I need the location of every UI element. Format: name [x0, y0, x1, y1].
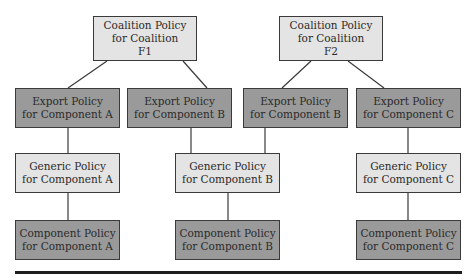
- edge-coal_f2-to-exp_b2: [282, 61, 311, 88]
- node-coal-f2: Coalition Policy for Coalition F2: [279, 16, 383, 61]
- edge-coal_f1-to-exp_b1: [183, 61, 207, 88]
- node-comp-a: Component Policy for Component A: [15, 220, 120, 260]
- node-label: Component Policy for Component A: [19, 227, 115, 253]
- node-label: Coalition Policy for Coalition F2: [290, 19, 373, 58]
- node-coal-f1: Coalition Policy for Coalition F1: [93, 16, 197, 61]
- policy-hierarchy-diagram: Coalition Policy for Coalition F1Coaliti…: [0, 0, 476, 280]
- node-label: Export Policy for Component A: [22, 95, 113, 121]
- edge-coal_f2-to-exp_c: [348, 61, 384, 88]
- node-label: Export Policy for Component B: [134, 95, 225, 121]
- node-comp-b: Component Policy for Component B: [175, 220, 280, 260]
- node-exp-c: Export Policy for Component C: [356, 88, 461, 128]
- node-label: Export Policy for Component B: [250, 95, 341, 121]
- node-gen-c: Generic Policy for Component C: [356, 153, 461, 193]
- node-exp-b2: Export Policy for Component B: [243, 88, 348, 128]
- node-gen-b: Generic Policy for Component B: [175, 153, 280, 193]
- node-label: Export Policy for Component C: [363, 95, 454, 121]
- node-label: Component Policy for Component B: [179, 227, 275, 253]
- node-exp-a: Export Policy for Component A: [15, 88, 120, 128]
- node-label: Coalition Policy for Coalition F1: [104, 19, 187, 58]
- node-label: Generic Policy for Component C: [363, 160, 454, 186]
- node-comp-c: Component Policy for Component C: [356, 220, 461, 260]
- node-label: Component Policy for Component C: [360, 227, 456, 253]
- node-label: Generic Policy for Component B: [182, 160, 273, 186]
- bottom-rule-divider: [15, 271, 462, 274]
- edge-coal_f1-to-exp_a: [68, 61, 107, 88]
- node-gen-a: Generic Policy for Component A: [15, 153, 120, 193]
- node-exp-b1: Export Policy for Component B: [127, 88, 232, 128]
- node-label: Generic Policy for Component A: [22, 160, 113, 186]
